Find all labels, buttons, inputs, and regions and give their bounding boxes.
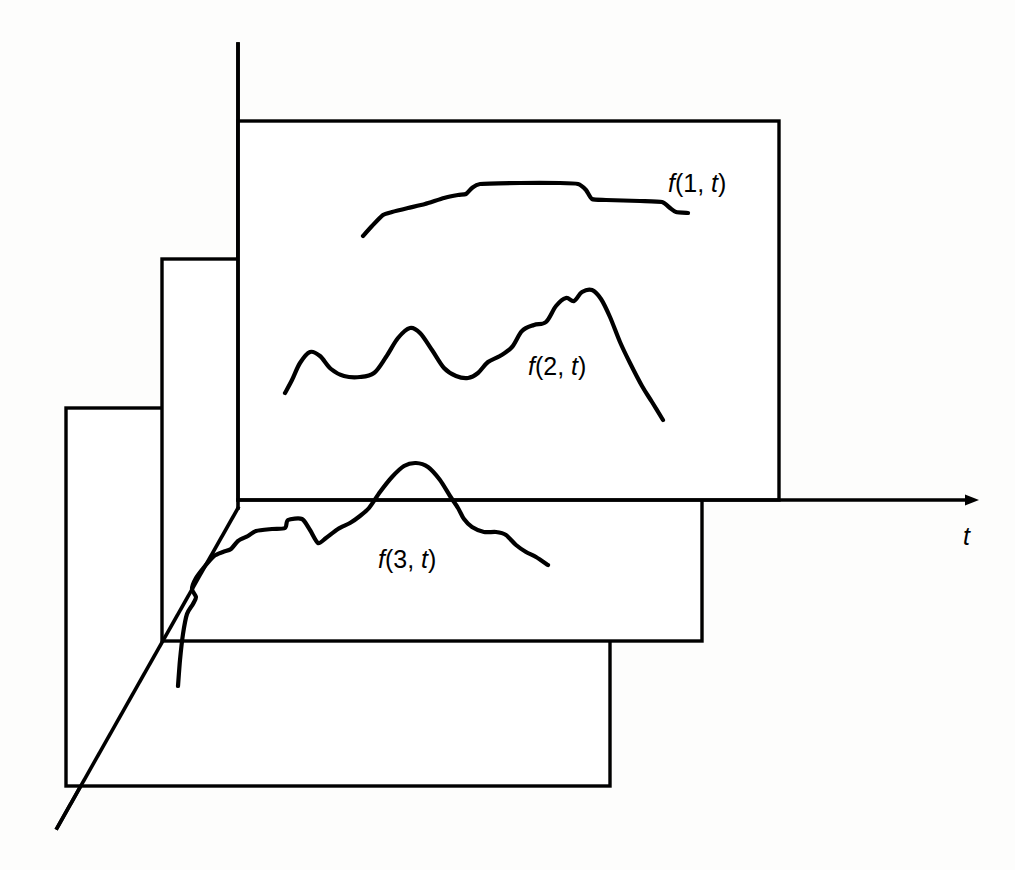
three-dimensional-signal-planes-diagram: f(1, t) f(2, t) f(3, t) t: [0, 0, 1015, 870]
plane-1-label: f(1, t): [668, 169, 726, 197]
plane-2-label: f(2, t): [528, 352, 586, 380]
time-axis-label: t: [963, 522, 971, 550]
figure-canvas: f(1, t) f(2, t) f(3, t) t: [0, 0, 1015, 870]
plane-3-label: f(3, t): [378, 545, 436, 573]
